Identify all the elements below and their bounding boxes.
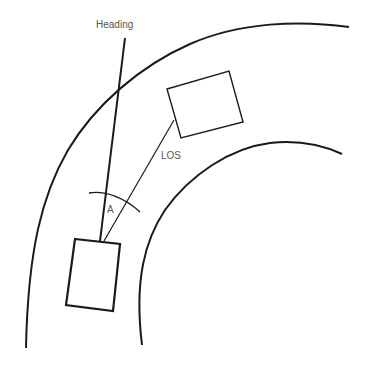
heading-label: Heading: [96, 19, 133, 30]
own-vehicle: [66, 239, 120, 311]
los-label: LOS: [161, 150, 181, 161]
los-line: [104, 120, 174, 241]
target-vehicle: [167, 71, 243, 138]
angle-label: A: [107, 204, 114, 215]
angle-arc: [89, 192, 140, 212]
outer-road-edge: [26, 23, 349, 348]
diagram-canvas: [0, 0, 367, 366]
inner-road-edge: [139, 142, 342, 345]
